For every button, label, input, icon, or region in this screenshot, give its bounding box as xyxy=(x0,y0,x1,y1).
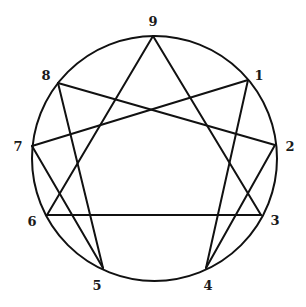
edge-8-5 xyxy=(58,83,103,268)
point-label-2: 2 xyxy=(285,140,294,153)
point-label-9: 9 xyxy=(148,15,157,28)
point-label-8: 8 xyxy=(41,69,50,82)
enneagram-circle xyxy=(32,36,277,281)
point-label-5: 5 xyxy=(92,279,101,292)
point-label-3: 3 xyxy=(270,214,279,227)
edge-2-8 xyxy=(58,83,275,145)
point-label-7: 7 xyxy=(13,140,22,153)
point-label-4: 4 xyxy=(203,279,212,292)
edge-4-2 xyxy=(206,145,275,268)
edge-1-4 xyxy=(206,80,248,268)
point-label-1: 1 xyxy=(254,69,263,82)
enneagram-diagram xyxy=(0,0,306,307)
point-label-6: 6 xyxy=(27,215,36,228)
